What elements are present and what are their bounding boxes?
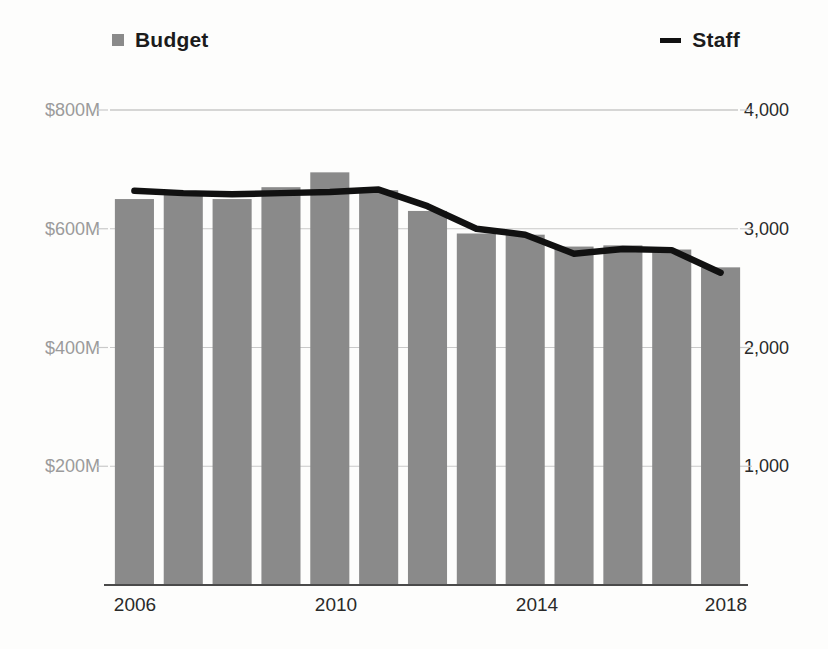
bar-series-budget bbox=[115, 172, 740, 585]
bar[interactable] bbox=[652, 250, 691, 585]
bar[interactable] bbox=[115, 199, 154, 585]
bar[interactable] bbox=[603, 245, 642, 585]
bar[interactable] bbox=[359, 190, 398, 585]
bar[interactable] bbox=[701, 267, 740, 585]
bar[interactable] bbox=[213, 199, 252, 585]
bar[interactable] bbox=[457, 234, 496, 586]
bar[interactable] bbox=[408, 211, 447, 585]
plot-area bbox=[0, 0, 828, 649]
dual-axis-chart: Budget Staff $800M $600M $400M $200M 4,0… bbox=[0, 0, 828, 649]
bar[interactable] bbox=[506, 235, 545, 585]
bar[interactable] bbox=[555, 247, 594, 585]
bar[interactable] bbox=[261, 187, 300, 585]
bar[interactable] bbox=[310, 172, 349, 585]
bar[interactable] bbox=[164, 193, 203, 585]
